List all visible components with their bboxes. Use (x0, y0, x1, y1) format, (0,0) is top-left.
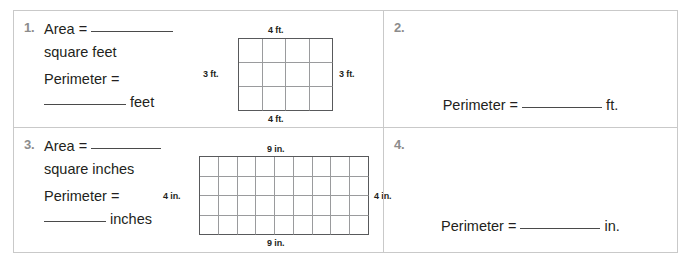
question-1-prompt: Area = square feet Perimeter = feet (44, 22, 173, 117)
question-1-perimeter-unit: feet (130, 94, 154, 110)
unit-square (200, 216, 219, 236)
unit-square (239, 63, 263, 87)
unit-square (275, 216, 294, 236)
unit-square (310, 87, 334, 111)
question-1-perimeter-line: Perimeter = (44, 72, 173, 87)
unit-square (310, 63, 334, 87)
question-3-area-line: Area = (44, 139, 161, 154)
unit-square (294, 177, 313, 197)
unit-square (263, 63, 287, 87)
question-3-perimeter-line: Perimeter = (44, 189, 161, 204)
question-number-1: 1. (24, 20, 34, 35)
unit-square (200, 177, 219, 197)
question-3-figure: 9 in. 4 in. 4 in. 9 in. (161, 144, 376, 244)
unit-square (263, 39, 287, 63)
unit-square (256, 177, 275, 197)
unit-square (256, 216, 275, 236)
worksheet-table: 1. Area = square feet Perimeter = feet (13, 10, 678, 253)
worksheet-cell-2: 2. Perimeter = ft. (383, 11, 677, 127)
question-1-area-line: Area = (44, 22, 173, 37)
unit-square (238, 216, 257, 236)
unit-square (256, 196, 275, 216)
unit-square (350, 157, 369, 177)
unit-square (219, 177, 238, 197)
worksheet-cell-1: 1. Area = square feet Perimeter = feet (14, 11, 383, 127)
unit-square (310, 39, 334, 63)
unit-square (331, 216, 350, 236)
question-1-dimension-bottom: 4 ft. (268, 114, 284, 124)
unit-square (200, 196, 219, 216)
unit-square (219, 157, 238, 177)
question-3-area-unit: square inches (44, 161, 134, 177)
question-3-perimeter-answer-line: inches (44, 212, 161, 227)
question-2-perimeter-label: Perimeter = (443, 97, 518, 113)
unit-square (286, 87, 310, 111)
unit-square (313, 177, 332, 197)
question-1-dimension-left: 3 ft. (203, 69, 219, 79)
question-1-perimeter-blank[interactable] (44, 104, 126, 105)
unit-square (275, 157, 294, 177)
unit-square (331, 157, 350, 177)
unit-square (350, 196, 369, 216)
unit-square (219, 196, 238, 216)
unit-square (294, 216, 313, 236)
question-2-perimeter-unit: ft. (606, 97, 618, 113)
unit-square (350, 177, 369, 197)
question-3-area-blank[interactable] (91, 148, 161, 149)
question-number-2: 2. (394, 20, 404, 35)
question-3-dimension-top: 9 in. (267, 144, 285, 154)
unit-square (200, 157, 219, 177)
worksheet-cell-4: 4. Perimeter = in. (383, 128, 677, 252)
question-3-dimension-bottom: 9 in. (267, 238, 285, 248)
question-1-perimeter-label: Perimeter = (44, 71, 119, 87)
question-1-dimension-top: 4 ft. (268, 25, 284, 35)
question-1-area-blank[interactable] (91, 31, 173, 32)
question-number-3: 3. (24, 137, 34, 152)
unit-square (239, 87, 263, 111)
unit-square (256, 157, 275, 177)
question-2-perimeter-blank[interactable] (522, 107, 602, 108)
unit-square (350, 216, 369, 236)
question-3-area-grid (199, 156, 369, 235)
question-4-answer-line: Perimeter = in. (384, 218, 677, 234)
unit-square (294, 196, 313, 216)
question-number-4: 4. (394, 137, 404, 152)
unit-square (238, 196, 257, 216)
worksheet-row-bottom: 3. Area = square inches Perimeter = inch… (14, 127, 677, 252)
question-2-answer-line: Perimeter = ft. (384, 97, 677, 113)
unit-square (313, 157, 332, 177)
question-3-perimeter-blank[interactable] (44, 221, 106, 222)
question-1-dimension-right: 3 ft. (339, 69, 355, 79)
question-4-perimeter-unit: in. (604, 218, 619, 234)
question-1-figure: 4 ft. 3 ft. 3 ft. 4 ft. (200, 25, 370, 125)
question-3-perimeter-unit: inches (110, 211, 152, 227)
question-1-area-label: Area = (44, 21, 87, 37)
unit-square (331, 196, 350, 216)
question-3-area-label: Area = (44, 138, 87, 154)
worksheet-cell-3: 3. Area = square inches Perimeter = inch… (14, 128, 383, 252)
unit-square (263, 87, 287, 111)
question-3-perimeter-label: Perimeter = (44, 188, 119, 204)
question-3-dimension-left: 4 in. (163, 191, 181, 201)
unit-square (294, 157, 313, 177)
unit-square (239, 39, 263, 63)
unit-square (275, 177, 294, 197)
unit-square (275, 196, 294, 216)
question-4-perimeter-label: Perimeter = (441, 218, 516, 234)
unit-square (313, 216, 332, 236)
question-1-area-grid (238, 38, 333, 111)
question-1-area-unit-line: square feet (44, 45, 173, 60)
question-1-perimeter-answer-line: feet (44, 95, 173, 110)
question-3-area-unit-line: square inches (44, 162, 161, 177)
unit-square (331, 177, 350, 197)
unit-square (238, 177, 257, 197)
unit-square (286, 39, 310, 63)
question-3-prompt: Area = square inches Perimeter = inches (44, 139, 161, 234)
unit-square (219, 216, 238, 236)
unit-square (313, 196, 332, 216)
worksheet-row-top: 1. Area = square feet Perimeter = feet (14, 11, 677, 127)
question-4-perimeter-blank[interactable] (520, 228, 600, 229)
unit-square (286, 63, 310, 87)
unit-square (238, 157, 257, 177)
question-1-area-unit: square feet (44, 44, 117, 60)
